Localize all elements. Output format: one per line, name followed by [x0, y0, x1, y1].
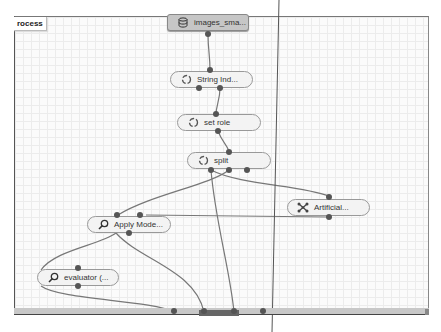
node-label: evaluator (...	[64, 270, 108, 285]
search-icon	[47, 272, 59, 284]
port[interactable]	[226, 149, 232, 155]
search-icon	[97, 219, 109, 231]
output-port[interactable]	[260, 308, 266, 314]
port[interactable]	[244, 167, 250, 173]
database-icon	[177, 17, 189, 29]
port[interactable]	[215, 128, 221, 134]
port[interactable]	[196, 85, 202, 91]
port[interactable]	[126, 230, 132, 236]
node-label: Apply Mode...	[114, 217, 163, 232]
port[interactable]	[205, 31, 211, 37]
port[interactable]	[217, 85, 223, 91]
port[interactable]	[114, 212, 120, 218]
node-label: split	[214, 153, 228, 168]
port[interactable]	[326, 194, 332, 200]
port[interactable]	[207, 67, 213, 73]
output-port[interactable]	[171, 308, 177, 314]
node-images-source[interactable]: images_sma...	[167, 14, 249, 31]
node-string-indexer[interactable]: String Ind...	[170, 71, 253, 88]
port[interactable]	[75, 283, 81, 289]
port[interactable]	[326, 214, 332, 220]
loop-icon	[187, 117, 199, 129]
output-port[interactable]	[231, 308, 237, 314]
node-label: images_sma...	[194, 15, 246, 30]
horizontal-scrollbar[interactable]	[14, 308, 429, 315]
port[interactable]	[213, 111, 219, 117]
port[interactable]	[75, 265, 81, 271]
port[interactable]	[208, 167, 214, 173]
node-label: Artificial...	[314, 200, 349, 215]
resize-corner[interactable]	[425, 309, 429, 315]
port[interactable]	[137, 212, 143, 218]
port[interactable]	[226, 167, 232, 173]
output-port[interactable]	[201, 308, 207, 314]
network-icon	[297, 202, 309, 214]
loop-icon	[197, 155, 209, 167]
loop-icon	[180, 74, 192, 86]
